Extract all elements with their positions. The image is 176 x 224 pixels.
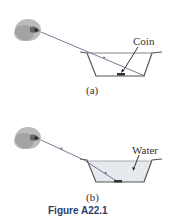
coin-pointer (123, 47, 138, 71)
panel-a (14, 19, 162, 76)
coin (117, 73, 125, 76)
eye-icon (14, 19, 41, 41)
bowl (80, 52, 162, 76)
coin-label: Coin (133, 36, 154, 47)
eye-icon (14, 127, 41, 149)
water (88, 161, 152, 182)
ray-arrowhead (103, 56, 106, 58)
water-label: Water (132, 145, 158, 156)
panel-b-label: (b) (86, 192, 99, 203)
figure-caption: Figure A22.1 (48, 206, 108, 216)
coin (114, 180, 122, 183)
panel-a-label: (a) (86, 85, 98, 96)
